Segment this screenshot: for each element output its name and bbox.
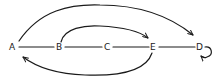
node-d: D (196, 42, 203, 52)
node-c: C (104, 42, 110, 52)
node-b: B (56, 42, 62, 52)
edge-e-to-a (23, 53, 152, 75)
edge-a-to-d (19, 5, 193, 41)
node-a: A (9, 42, 16, 52)
graph-diagram: A B C E D (0, 0, 220, 83)
node-e: E (150, 42, 156, 52)
edge-b-to-e (61, 26, 148, 42)
